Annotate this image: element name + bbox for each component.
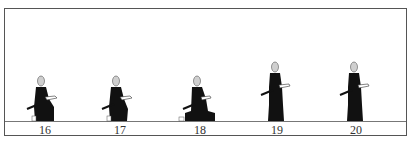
diagram-frame: 16 17 18 19 20 [4,8,407,136]
frame-label-17: 17 [105,123,135,137]
figure-kneeling-icon [98,67,142,123]
frame-label-20: 20 [341,123,371,137]
frame-label-18: 18 [185,123,215,137]
figure-kneeling-icon [23,67,67,123]
figure-standing-icon [255,59,299,123]
figure-standing-icon [334,59,378,123]
frame-label-19: 19 [262,123,292,137]
frame-label-16: 16 [30,123,60,137]
figure-seated-icon [175,67,219,123]
